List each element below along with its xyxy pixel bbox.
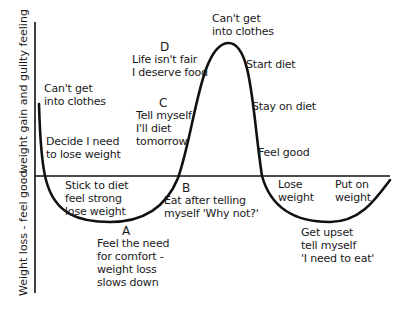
point-b-text: Eat after telling myself 'Why not?': [164, 194, 259, 220]
label-get-upset: Get upset tell myself 'I need to eat': [301, 226, 374, 265]
label-cant-get-into-clothes-peak: Can't get into clothes: [212, 12, 274, 38]
label-stay-on-diet: Stay on diet: [252, 100, 316, 113]
label-feel-good: Feel good: [258, 146, 309, 159]
label-start-diet: Start diet: [246, 58, 296, 71]
label-put-on-weight: Put on weight: [335, 178, 371, 204]
axis-label-lower: Weight loss - feel good: [17, 171, 30, 296]
point-a-text: Feel the need for comfort - weight loss …: [97, 237, 169, 289]
label-cant-get-into-clothes-left: Can't get into clothes: [44, 82, 106, 108]
label-decide-lose-weight: Decide I need to lose weight: [46, 135, 121, 161]
label-stick-to-diet: Stick to diet feel strong lose weight: [65, 179, 128, 218]
point-d-text: Life isn't fair I deserve food: [132, 53, 208, 79]
axis-label-upper: weight gain and guilty feeling: [17, 9, 30, 173]
label-lose-weight: Lose weight: [278, 178, 314, 204]
point-c-text: Tell myself I'll diet tomorrow: [136, 109, 192, 148]
